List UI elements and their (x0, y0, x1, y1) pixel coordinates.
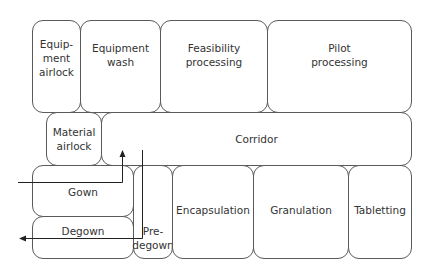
room-granulation: Granulation (253, 165, 349, 259)
room-label: Equipment wash (92, 41, 149, 69)
room-label: Tabletting (354, 203, 406, 217)
arrowhead-left-icon (19, 236, 26, 242)
room-equipment-wash: Equipment wash (80, 20, 161, 113)
room-label: Equip- ment airlock (39, 37, 74, 79)
room-pre-degown: Pre- degown (133, 165, 173, 259)
room-encapsulation: Encapsulation (172, 165, 254, 259)
room-label: Encapsulation (176, 203, 250, 217)
room-feasibility-processing: Feasibility processing (160, 20, 268, 113)
room-label: Granulation (270, 203, 332, 217)
room-corridor: Corridor (101, 112, 412, 166)
room-equipment-airlock: Equip- ment airlock (32, 20, 81, 113)
room-material-airlock: Material airlock (46, 112, 102, 166)
room-pilot-processing: Pilot processing (267, 20, 412, 113)
room-label: Gown (68, 185, 98, 199)
room-label: Corridor (235, 132, 278, 146)
room-gown: Gown (32, 165, 134, 217)
room-tabletting: Tabletting (348, 165, 412, 259)
room-degown: Degown (32, 216, 134, 259)
room-label: Pilot processing (311, 41, 368, 69)
room-label: Pre- degown (132, 224, 173, 252)
room-label: Feasibility processing (186, 41, 243, 69)
room-label: Degown (62, 224, 105, 238)
room-label: Material airlock (53, 125, 96, 153)
